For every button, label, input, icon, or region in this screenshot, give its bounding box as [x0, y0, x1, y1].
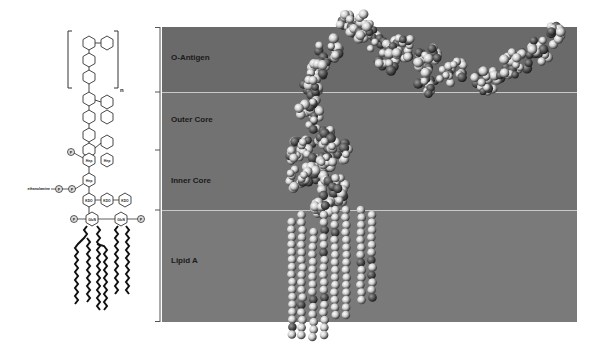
heptose-units: Hep Hep Hep [83, 153, 113, 187]
svg-text:KDO: KDO [121, 199, 129, 203]
ethanolamine-label: ethanolamine [27, 187, 50, 191]
region-outer-core [162, 93, 577, 150]
lps-chemical-schematic: n Hep Hep Hep P ethanolamine P P KDO [0, 0, 160, 350]
svg-text:Hep: Hep [104, 159, 111, 163]
svg-text:Hep: Hep [86, 179, 93, 183]
region-lipid-a [162, 211, 577, 322]
region-o-antigen [162, 27, 577, 92]
separator-line [162, 210, 577, 211]
region-label-o-antigen: O-Antigen [171, 53, 210, 62]
region-label-outer-core: Outer Core [171, 115, 213, 124]
svg-text:GlcN: GlcN [117, 218, 125, 222]
kdo-units: KDO KDO KDO [83, 193, 131, 207]
region-label-lipid-a: Lipid A [171, 256, 198, 265]
svg-text:Hep: Hep [86, 159, 93, 163]
region-inner-core [162, 150, 577, 210]
lps-regions-panel: O-Antigen Outer Core Inner Core Lipid A [162, 27, 577, 322]
svg-text:GlcN: GlcN [88, 218, 96, 222]
sugar-chain [83, 36, 113, 157]
fatty-acid-chains [75, 226, 129, 310]
svg-text:KDO: KDO [103, 199, 111, 203]
glucosamine-units: GlcN GlcN P P [71, 212, 145, 226]
svg-text:KDO: KDO [85, 199, 93, 203]
separator-line [162, 92, 577, 93]
repeat-subscript: n [120, 87, 124, 93]
region-label-inner-core: Inner Core [171, 176, 211, 185]
